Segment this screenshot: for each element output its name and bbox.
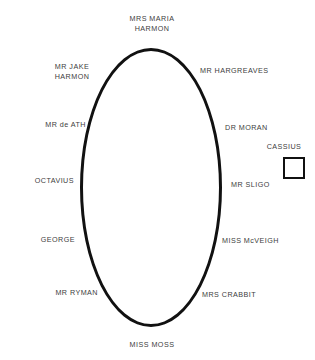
seat-label-octavius: OCTAVIUS [2,176,74,186]
cassius-label: CASSIUS [262,142,306,152]
seat-label-mr-de-ath: MR de ATH [8,120,86,130]
seat-label-mrs-crabbit: MRS CRABBIT [202,290,292,300]
seat-label-dr-moran: DR MORAN [225,123,305,133]
seat-label-mrs-maria-harmon: MRS MARIA HARMON [100,14,204,34]
seat-label-miss-mcveigh: MISS McVEIGH [222,236,312,246]
seat-label-george: GEORGE [10,235,75,245]
seat-label-mr-ryman: MR RYMAN [20,288,98,298]
seat-label-mr-sligo: MR SLIGO [231,180,311,190]
cassius-square-marker [283,157,305,179]
seat-label-mr-jake-harmon: MR JAKE HARMON [30,62,114,82]
oval-table-outline [80,48,222,327]
seating-plan-diagram: MRS MARIA HARMON MR JAKE HARMON MR HARGR… [0,0,315,360]
cassius-annotation: CASSIUS [262,142,310,152]
seat-label-miss-moss: MISS MOSS [104,340,200,350]
seat-label-mr-hargreaves: MR HARGREAVES [200,66,300,76]
